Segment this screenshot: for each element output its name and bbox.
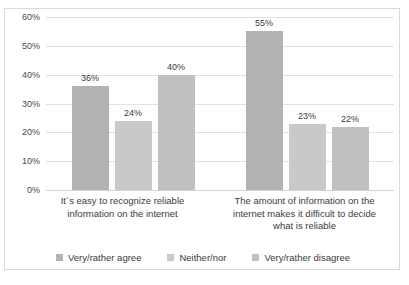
y-axis-tick-40: 40% xyxy=(22,70,40,79)
y-axis-tick-50: 50% xyxy=(22,41,40,50)
legend-swatch-icon xyxy=(252,254,259,261)
bar-value-label: 36% xyxy=(81,74,99,83)
category-label-line: It´s easy to recognize reliable xyxy=(35,195,210,208)
legend-label: Neither/nor xyxy=(179,252,226,263)
legend-item-2[interactable]: Very/rather disagree xyxy=(252,252,350,263)
y-axis-tick-30: 30% xyxy=(22,99,40,108)
bar: 22% xyxy=(332,127,369,190)
bar-value-label: 55% xyxy=(255,19,273,28)
chart-frame: 60%50%40%30%20%10%0% 36%24%40%55%23%22% … xyxy=(4,8,400,270)
category-label-line: information on the internet xyxy=(35,208,210,221)
legend-label: Very/rather disagree xyxy=(264,252,350,263)
legend-label: Very/rather agree xyxy=(68,252,141,263)
bar-value-label: 40% xyxy=(167,63,185,72)
category-label-line: internet makes it difficult to decide xyxy=(217,208,392,221)
chart-legend: Very/rather agreeNeither/norVery/rather … xyxy=(5,252,401,263)
bar-value-label: 24% xyxy=(124,109,142,118)
y-axis-tick-10: 10% xyxy=(22,157,40,166)
category-label-1: The amount of information on theinternet… xyxy=(217,195,392,233)
bar-value-label: 23% xyxy=(298,112,316,121)
bar: 23% xyxy=(289,124,326,190)
bar: 40% xyxy=(158,75,195,190)
legend-item-1[interactable]: Neither/nor xyxy=(167,252,226,263)
plot-area: 60%50%40%30%20%10%0% 36%24%40%55%23%22% xyxy=(46,17,394,190)
legend-item-0[interactable]: Very/rather agree xyxy=(56,252,141,263)
bar: 24% xyxy=(115,121,152,190)
gridline xyxy=(46,17,394,18)
y-axis-tick-60: 60% xyxy=(22,13,40,22)
gridline xyxy=(46,190,394,191)
legend-swatch-icon xyxy=(56,254,63,261)
legend-swatch-icon xyxy=(167,254,174,261)
category-label-line: The amount of information on the xyxy=(217,195,392,208)
category-label-line: what is reliable xyxy=(217,220,392,233)
y-axis-tick-20: 20% xyxy=(22,128,40,137)
category-label-0: It´s easy to recognize reliableinformati… xyxy=(35,195,210,220)
y-axis-tick-0: 0% xyxy=(27,186,40,195)
gridline xyxy=(46,46,394,47)
bar: 55% xyxy=(246,31,283,190)
bar: 36% xyxy=(72,86,109,190)
bar-value-label: 22% xyxy=(341,115,359,124)
